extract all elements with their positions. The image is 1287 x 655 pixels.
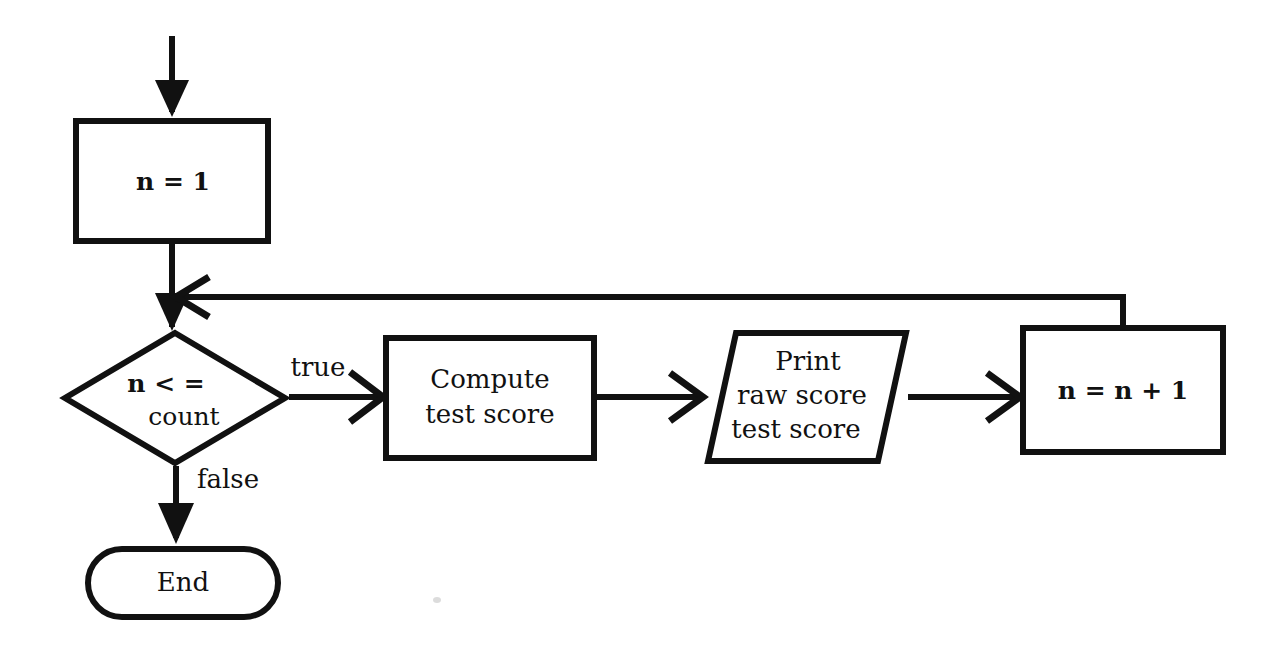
node-print[interactable]: Print raw score test score [708, 333, 906, 461]
node-increment[interactable]: n = n + 1 [1023, 328, 1223, 452]
edge-decision-to-end [158, 466, 194, 544]
edge-increment-to-decision-loop [176, 277, 1123, 325]
print-label-line3: test score [731, 414, 860, 444]
edge-label-true: true [290, 352, 345, 382]
edge-print-to-increment [908, 373, 1020, 421]
edge-compute-to-print [597, 373, 703, 421]
decision-label-line1: n < = [127, 369, 204, 398]
edge-entry-to-init [155, 36, 189, 117]
end-label: End [157, 567, 209, 597]
node-compute[interactable]: Compute test score [386, 338, 594, 458]
edge-label-false: false [197, 464, 259, 494]
edge-init-to-decision [155, 243, 189, 331]
decision-shape[interactable] [65, 333, 285, 463]
flowchart-canvas: Decision --> Compute --> true End --> fa… [0, 0, 1287, 655]
print-label-line1: Print [775, 346, 841, 376]
compute-label-line1: Compute [430, 364, 549, 394]
compute-label-line2: test score [425, 399, 554, 429]
compute-shape[interactable] [386, 338, 594, 458]
increment-label: n = n + 1 [1058, 376, 1188, 405]
entry-arrow-head-icon [155, 80, 189, 117]
print-label-line2: raw score [737, 380, 867, 410]
decision-label-line2: count [148, 402, 219, 431]
scan-speck [433, 597, 441, 603]
false-branch-arrow-head-icon [158, 503, 194, 544]
node-end[interactable]: End [88, 549, 278, 617]
init-label: n = 1 [136, 167, 210, 196]
node-decision[interactable]: n < = count [65, 333, 285, 463]
loop-shaft [182, 297, 1123, 325]
node-init[interactable]: n = 1 [76, 121, 268, 241]
